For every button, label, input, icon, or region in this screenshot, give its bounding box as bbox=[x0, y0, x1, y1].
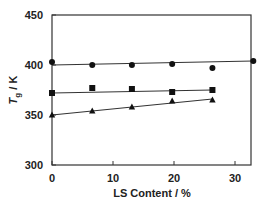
y-tick-label: 450 bbox=[25, 9, 43, 21]
square-marker bbox=[49, 90, 55, 96]
circle-marker bbox=[169, 61, 175, 67]
x-tick-label: 10 bbox=[107, 172, 119, 184]
circle-marker bbox=[89, 62, 95, 68]
square-marker bbox=[169, 89, 175, 95]
fit-lines bbox=[52, 61, 253, 115]
y-axis-title: Tg / K bbox=[7, 76, 22, 105]
circles-fit-line bbox=[52, 61, 253, 65]
circle-marker bbox=[209, 65, 215, 71]
circle-marker bbox=[129, 62, 135, 68]
data-markers bbox=[49, 58, 256, 118]
x-tick-label: 30 bbox=[229, 172, 241, 184]
plot-border bbox=[52, 15, 251, 165]
circle-marker bbox=[250, 58, 256, 64]
x-tick-label: 0 bbox=[49, 172, 55, 184]
chart: 0102030 300350400450 LS Content / % Tg /… bbox=[0, 0, 263, 211]
circle-marker bbox=[49, 59, 55, 65]
square-marker bbox=[209, 87, 215, 93]
triangle-marker bbox=[169, 98, 175, 104]
y-tick-label: 300 bbox=[25, 159, 43, 171]
x-tick-label: 20 bbox=[168, 172, 180, 184]
y-axis-title-unit: / K bbox=[7, 76, 19, 93]
square-marker bbox=[89, 85, 95, 91]
plot-frame bbox=[52, 15, 251, 165]
square-marker bbox=[129, 86, 135, 92]
y-tick-label: 350 bbox=[25, 109, 43, 121]
x-axis-title: LS Content / % bbox=[113, 187, 191, 199]
y-tick-label: 400 bbox=[25, 59, 43, 71]
